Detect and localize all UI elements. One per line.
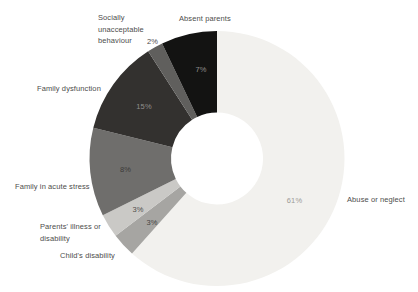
slice-value-label-abuse-or-neglect: 61% xyxy=(287,196,303,205)
donut-chart-figure: 61%3%3%8%15%7% Socially unacceptable beh… xyxy=(0,0,418,292)
slice-value-label-socially-unacceptable-behaviour: 2% xyxy=(147,36,158,48)
slice-label-absent-parents: Absent parents xyxy=(179,13,231,25)
slice-label-family-dysfunction: Family dysfunction xyxy=(37,83,101,95)
slice-value-label-family-dysfunction: 15% xyxy=(136,102,152,111)
slice-value-label-childs-disability: 3% xyxy=(146,218,157,227)
slice-value-label-parents-illness-or-disability: 3% xyxy=(132,205,143,214)
slice-label-abuse-or-neglect: Abuse or neglect xyxy=(347,194,405,206)
slice-label-family-in-acute-stress: Family in acute stress xyxy=(15,181,90,193)
slice-value-label-absent-parents: 7% xyxy=(195,65,206,74)
slice-value-label-family-in-acute-stress: 8% xyxy=(120,165,131,174)
slice-label-childs-disability: Child's disability xyxy=(60,250,115,262)
donut-chart: 61%3%3%8%15%7% xyxy=(0,0,418,292)
slice-label-parents-illness-or-disability: Parents' illness or disability xyxy=(40,221,101,244)
slice-label-socially-unacceptable-behaviour: Socially unacceptable behaviour xyxy=(98,12,144,47)
